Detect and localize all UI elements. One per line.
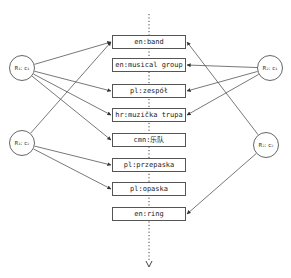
- sense-label: en:band: [134, 38, 164, 46]
- sense-box-en-musical-group[interactable]: en:musical group: [112, 58, 186, 72]
- edge-arrow-r1c1-to-yuedui: [32, 76, 111, 140]
- sense-label: en:ring: [134, 210, 164, 218]
- sense-box-pl-zespol[interactable]: pl:zespół: [112, 84, 186, 98]
- sense-box-en-band[interactable]: en:band: [112, 35, 186, 49]
- sense-box-pl-przepaska[interactable]: pl:przepaska: [112, 158, 186, 172]
- edge-arrow-r1c1-to-band: [34, 42, 111, 64]
- edge-arrow-r2c1-to-muzicka_trupa: [187, 74, 259, 115]
- cluster-node-r1-c2[interactable]: R₁: c₂: [9, 130, 35, 156]
- cluster-node-r2-c2[interactable]: R₂: c₂: [253, 132, 279, 158]
- sense-box-hr-muzicka-trupa[interactable]: hr:muzička trupa: [112, 108, 186, 122]
- edge-arrow-r2c1-to-musical_group: [187, 65, 257, 68]
- sense-label: pl:zespół: [130, 87, 168, 95]
- chain-arrowhead-icon: [146, 261, 152, 267]
- edge-arrow-r1c2-to-opaska: [34, 149, 111, 189]
- cluster-node-r2-c1[interactable]: R₂: c₁: [257, 55, 283, 81]
- cluster-node-r1-c1[interactable]: R₁: c₁: [9, 55, 35, 81]
- sense-box-en-ring[interactable]: en:ring: [112, 207, 186, 221]
- sense-label: pl:przepaska: [124, 161, 175, 169]
- cluster-label: R₁: c₂: [15, 140, 30, 146]
- cluster-label: R₂: c₂: [259, 142, 274, 148]
- sense-label: en:musical group: [115, 61, 182, 69]
- sense-label: cmn:乐队: [134, 136, 165, 144]
- sense-box-cmn-yuedui[interactable]: cmn:乐队: [112, 133, 186, 147]
- sense-box-pl-opaska[interactable]: pl:opaska: [112, 182, 186, 196]
- sense-label: pl:opaska: [130, 185, 168, 193]
- sense-label: hr:muzička trupa: [115, 111, 182, 119]
- cluster-label: R₁: c₁: [15, 65, 30, 71]
- cluster-label: R₂: c₁: [263, 65, 278, 71]
- edge-arrow-r2c2-to-ring: [187, 154, 256, 214]
